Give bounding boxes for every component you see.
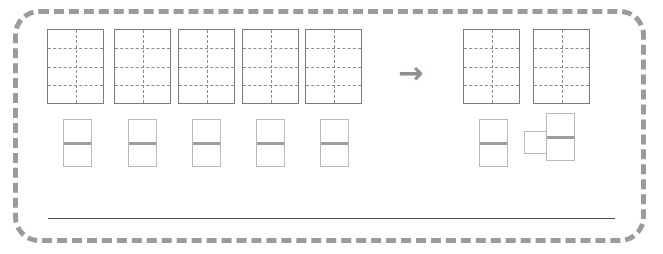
worksheet-screenshot: → bbox=[0, 0, 663, 254]
answer-line[interactable] bbox=[48, 218, 615, 219]
right-arrow-icon: → bbox=[398, 58, 423, 88]
worksheet-frame bbox=[13, 9, 646, 243]
